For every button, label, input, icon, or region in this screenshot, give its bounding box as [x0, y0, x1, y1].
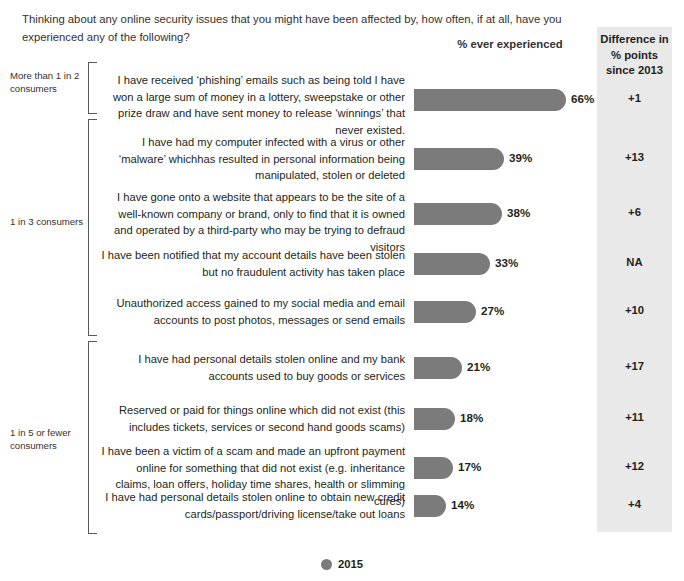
- bar-wrap: 39%: [414, 148, 504, 170]
- bar-wrap: 27%: [414, 301, 476, 323]
- legend-swatch-icon: [321, 559, 332, 570]
- bar-wrap: 66%: [414, 89, 566, 111]
- row-label: I have received ‘phishing’ emails such a…: [100, 72, 405, 138]
- difference-value: +11: [597, 411, 672, 423]
- legend-label: 2015: [338, 558, 363, 570]
- bar-wrap: 18%: [414, 408, 455, 430]
- row-label: I have gone onto a website that appears …: [100, 189, 405, 255]
- difference-column-header: Difference in % points since 2013: [597, 32, 672, 79]
- row-label: I have had personal details stolen onlin…: [100, 351, 405, 384]
- bar-value-label: 66%: [571, 92, 594, 105]
- group-label-2: 1 in 3 consumers: [10, 215, 84, 228]
- difference-value: NA: [597, 256, 672, 268]
- row-label: I have been notified that my account det…: [100, 247, 405, 280]
- bar-value-label: 33%: [495, 256, 518, 269]
- row-label: I have had personal details stolen onlin…: [100, 489, 405, 522]
- bar-value-label: 14%: [451, 498, 474, 511]
- bar-value-label: 17%: [458, 460, 481, 473]
- difference-value: +4: [597, 498, 672, 510]
- bar-wrap: 38%: [414, 203, 502, 225]
- bar-wrap: 21%: [414, 357, 462, 379]
- difference-value: +6: [597, 206, 672, 218]
- bar-value-label: 18%: [460, 411, 483, 424]
- row-label: I have had my computer infected with a v…: [100, 134, 405, 184]
- group-bracket-2: [88, 119, 97, 336]
- group-bracket-1: [88, 62, 97, 114]
- bar-2015: [414, 148, 504, 170]
- bar-2015: [414, 408, 455, 430]
- bar-value-label: 39%: [509, 151, 532, 164]
- bar-wrap: 33%: [414, 253, 490, 275]
- difference-value: +17: [597, 360, 672, 372]
- bar-2015: [414, 89, 566, 111]
- bar-2015: [414, 495, 446, 517]
- difference-value: +13: [597, 151, 672, 163]
- chart-legend: 2015: [0, 558, 684, 570]
- bar-2015: [414, 457, 453, 479]
- row-label: Unauthorized access gained to my social …: [100, 295, 405, 328]
- chart-container: Thinking about any online security issue…: [0, 0, 684, 581]
- group-label-1: More than 1 in 2 consumers: [10, 69, 84, 95]
- difference-value: +10: [597, 304, 672, 316]
- row-label: Reserved or paid for things online which…: [100, 402, 405, 435]
- bar-2015: [414, 253, 490, 275]
- bar-2015: [414, 203, 502, 225]
- bar-value-label: 38%: [507, 206, 530, 219]
- bar-2015: [414, 357, 462, 379]
- bar-wrap: 17%: [414, 457, 453, 479]
- bar-wrap: 14%: [414, 495, 446, 517]
- bar-2015: [414, 301, 476, 323]
- percent-column-header: % ever experienced: [430, 38, 590, 50]
- bar-value-label: 27%: [481, 304, 504, 317]
- difference-value: +12: [597, 460, 672, 472]
- group-bracket-3: [88, 341, 97, 534]
- difference-value: +1: [597, 92, 672, 104]
- bar-value-label: 21%: [467, 360, 490, 373]
- group-label-3: 1 in 5 or fewer consumers: [10, 426, 84, 452]
